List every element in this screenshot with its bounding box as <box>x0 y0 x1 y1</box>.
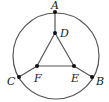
label-a: A <box>50 0 59 12</box>
geometry-diagram: ADFECB <box>0 0 109 102</box>
label-d: D <box>59 27 69 40</box>
label-f: F <box>33 72 42 85</box>
point-d <box>53 31 57 35</box>
point-f <box>35 64 39 68</box>
label-c: C <box>7 75 16 88</box>
label-b: B <box>95 75 104 88</box>
label-e: E <box>70 72 79 85</box>
point-e <box>72 64 76 68</box>
segment-df <box>37 33 55 66</box>
outer-circle <box>13 13 99 99</box>
point-c <box>17 75 21 79</box>
point-b <box>90 75 94 79</box>
